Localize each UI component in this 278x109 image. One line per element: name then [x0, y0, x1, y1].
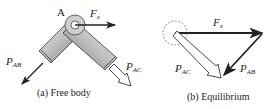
label-base: F	[213, 16, 220, 28]
label-sub: AB	[247, 68, 256, 76]
label-sub: AB	[13, 61, 22, 69]
caption-free-body: (a) Free body	[37, 87, 91, 98]
label-sub: x	[97, 13, 100, 21]
label-sub: AC	[133, 66, 142, 74]
label-pac-a: PAC	[126, 61, 142, 74]
label-base: P	[6, 55, 13, 67]
label-base: P	[240, 62, 247, 74]
label-sub: x	[220, 22, 223, 30]
label-pab-a: PAB	[6, 56, 21, 69]
caption-equilibrium: (b) Equilibrium	[187, 91, 250, 102]
label-base: P	[175, 62, 182, 74]
joint-label-a: A	[57, 7, 65, 18]
label-fx-b: Fx	[213, 17, 223, 30]
label-base: F	[90, 7, 97, 19]
label-pac-b: PAC	[175, 63, 191, 76]
arrow-pab-a	[22, 63, 43, 84]
label-fx-a: Fx	[90, 8, 100, 21]
label-base: P	[126, 60, 133, 72]
label-sub: AC	[182, 68, 191, 76]
label-pab-b: PAB	[240, 63, 255, 76]
